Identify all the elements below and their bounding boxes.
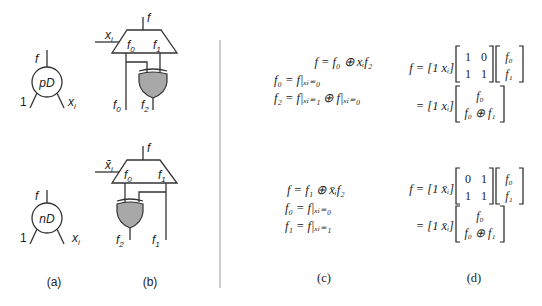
panel-label-d: (d): [467, 271, 482, 285]
matrix-d-bottom-a12: 1: [481, 172, 487, 186]
eq-c-bottom-2: f₀ = f|ₓᵢ₌₀: [285, 201, 331, 215]
vector-d-top-2: f₁: [505, 67, 513, 81]
pd-output-label: f: [35, 52, 40, 66]
vector-d-top-right-bracket: [519, 46, 523, 82]
nd-left-input-label: 1: [20, 231, 27, 245]
vector-d-top-1: f₀: [505, 50, 513, 64]
vector-d-top-left-bracket: [496, 46, 500, 82]
eq-c-bottom-3: f₁ = f|ₓᵢ₌₁: [285, 219, 331, 233]
result-d-top-2: f₀ ⊕ f₁: [464, 106, 495, 120]
matrix-d-bottom-a21: 1: [465, 189, 471, 203]
nd-left-leg: [30, 229, 37, 244]
vector-d-bottom-1: f₀: [505, 172, 513, 186]
mux-top-out-right-label: f2: [141, 98, 149, 114]
panel-label-b: (b): [143, 275, 158, 289]
matrix-d-top-right-bracket: [489, 46, 493, 82]
matrix-d-bottom-left-bracket: [456, 168, 460, 204]
mux-bottom-trapezoid: [112, 160, 177, 183]
matrix-d-bottom-right-bracket: [489, 168, 493, 204]
nd-right-input-label: xi: [71, 231, 80, 247]
matrix-d-top: f = [1 xᵢ] 1 0 1 1 f₀ f₁ = [1 xᵢ] f₀ f₀ …: [409, 46, 523, 122]
mux-top-output-label: f: [147, 11, 152, 25]
nd-output-label: f: [35, 189, 40, 203]
nd-right-leg: [57, 229, 64, 244]
matrix-d-bottom-lhs: f = [1 x̄ᵢ]: [409, 182, 454, 196]
nd-node: nD f 1 xi: [20, 189, 80, 247]
matrix-d-top-a12: 0: [481, 50, 487, 64]
result-d-bottom-left-bracket: [456, 206, 460, 242]
mux-bottom-select-label: x̄i: [104, 158, 113, 174]
mux-top-out-left-label: f0: [113, 98, 121, 114]
xor-gate-top-input-arc: [139, 69, 167, 71]
xor-gate-top: [139, 72, 167, 98]
result-d-bottom-right-bracket: [500, 206, 504, 242]
eq-c-top-1: f = f₀ ⊕ xᵢf₂: [314, 55, 372, 69]
result-d-bottom-2: f₀ ⊕ f₁: [464, 226, 495, 240]
mux-top-select-label: xi: [104, 28, 113, 44]
result-d-top-left-bracket: [456, 86, 460, 122]
panel-label-a: (a): [47, 275, 62, 289]
mux-bottom-out-left-label: f2: [116, 233, 124, 249]
matrix-d-top-a22: 1: [481, 67, 487, 81]
pd-right-input-label: xi: [67, 95, 76, 111]
matrix-d-top-left-bracket: [456, 46, 460, 82]
mux-bottom-output-label: f: [147, 141, 152, 155]
pd-label: pD: [38, 76, 55, 90]
nd-label: nD: [39, 212, 55, 226]
mux-circuit-top: f xi f0 f1 f0 f2: [95, 11, 177, 114]
matrix-d-bottom: f = [1 x̄ᵢ] 0 1 1 1 f₀ f₁ = [1 x̄ᵢ] f₀ f…: [409, 168, 523, 242]
figure-canvas: pD f 1 xi nD f 1 xi f xi f0 f1 f0 f2: [0, 0, 542, 306]
result-d-top-1: f₀: [476, 89, 484, 103]
eq-c-bottom-1: f = f₁ ⊕ x̄ᵢf₂: [287, 183, 345, 197]
result-d-bottom-1: f₀: [476, 209, 484, 223]
matrix-d-top-line2-lhs: = [1 xᵢ]: [416, 99, 454, 113]
matrix-d-bottom-a22: 1: [481, 189, 487, 203]
matrix-d-top-a21: 1: [465, 67, 471, 81]
mux-circuit-bottom: f x̄i f0 f1 f2 f1: [95, 141, 177, 249]
vector-d-bottom-2: f₁: [505, 189, 513, 203]
pd-left-input-label: 1: [20, 95, 27, 109]
matrix-d-bottom-a11: 0: [465, 172, 471, 186]
pd-node: pD f 1 xi: [20, 50, 76, 111]
matrix-d-top-lhs: f = [1 xᵢ]: [409, 61, 454, 75]
eq-c-top-3: f₂ = f|ₓᵢ₌₁ ⊕ f|ₓᵢ₌₀: [274, 91, 360, 105]
xor-gate-bottom: [117, 202, 143, 228]
eq-c-top-2: f₀ = f|ₓᵢ₌₀: [274, 73, 320, 87]
pd-right-leg: [57, 93, 64, 108]
mux-top-trapezoid: [112, 30, 177, 53]
panel-label-c: (c): [317, 271, 331, 285]
vector-d-bottom-left-bracket: [496, 168, 500, 204]
matrix-d-top-a11: 1: [465, 50, 471, 64]
matrix-d-bottom-line2-lhs: = [1 x̄ᵢ]: [416, 219, 454, 233]
vector-d-bottom-right-bracket: [519, 168, 523, 204]
mux-bottom-out-right-label: f1: [152, 233, 160, 249]
equations-c-top: f = f₀ ⊕ xᵢf₂ f₀ = f|ₓᵢ₌₀ f₂ = f|ₓᵢ₌₁ ⊕ …: [274, 55, 373, 105]
pd-left-leg: [30, 93, 37, 108]
result-d-top-right-bracket: [500, 86, 504, 122]
equations-c-bottom: f = f₁ ⊕ x̄ᵢf₂ f₀ = f|ₓᵢ₌₀ f₁ = f|ₓᵢ₌₁: [285, 183, 345, 233]
